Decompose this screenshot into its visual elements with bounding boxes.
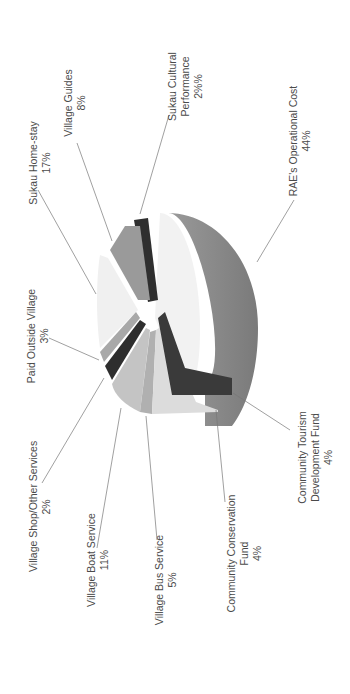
label-paid: Paid Outside Village3% [25,286,51,386]
label-cultural: Sukau CulturalPerformance2%% [166,47,205,127]
label-guides: Village Guides8% [62,68,88,138]
pie-chart: RAE's Operational Cost44% Community Tour… [0,0,350,694]
label-ccf: Community ConservationFund4% [225,495,264,613]
label-bus: Village Bus Service5% [153,530,179,630]
label-shop: Village Shop/Other Services2% [27,442,53,572]
label-home: Sukau Home-stay17% [27,118,53,208]
label-rae: RAE's Operational Cost44% [287,81,313,201]
label-ctdf: Community TourismDevelopment Fund4% [296,408,335,508]
label-boat: Village Boat Service11% [85,510,111,610]
